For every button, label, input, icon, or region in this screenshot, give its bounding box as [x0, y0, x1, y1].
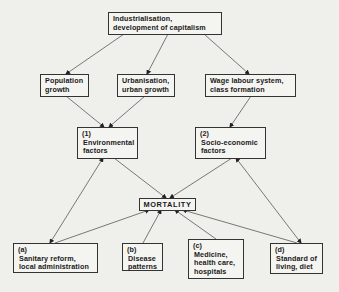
node-medicine: (c) Medicine, health care, hospitals: [188, 239, 244, 279]
node-text: MORTALITY: [143, 200, 192, 209]
arrow-industrialisation-population: [66, 34, 124, 74]
arrow-disease-mortality: [143, 210, 161, 243]
arrow-urbanisation-environmental: [109, 96, 145, 127]
arrow-sanitary-environmental: [50, 158, 103, 243]
node-text: urban growth: [122, 86, 170, 95]
node-disease-patterns: (b) Disease patterns: [122, 243, 163, 271]
node-text: development of capitalism: [113, 24, 217, 33]
arrow-socioeconomic-mortality: [170, 158, 232, 198]
arrow-standard-socioeconomic: [236, 158, 301, 243]
arrow-wage-socioeconomic: [230, 96, 251, 127]
node-sanitary-reform: (a) Sanitary reform, local administratio…: [13, 243, 98, 273]
node-text: patterns: [127, 263, 158, 272]
arrow-industrialisation-urbanisation: [147, 34, 168, 74]
node-text: local administration: [18, 263, 93, 272]
arrow-population-environmental: [66, 96, 104, 127]
node-text: class formation: [210, 86, 291, 95]
arrow-medicine-mortality: [175, 210, 216, 239]
mortality-factors-diagram: Industrialisation, development of capita…: [0, 0, 339, 292]
node-wage-labour: Wage labour system, class formation: [205, 74, 296, 97]
node-mortality: MORTALITY: [139, 198, 196, 211]
node-text: factors: [200, 147, 261, 156]
node-text: hospitals: [193, 268, 239, 277]
arrow-sanitary-mortality: [55, 210, 149, 243]
arrow-industrialisation-wage: [204, 34, 249, 74]
node-environmental-factors: (1) Environmental factors: [77, 127, 138, 159]
node-text: growth: [45, 86, 84, 95]
arrow-environmental-mortality: [114, 158, 166, 198]
node-standard-of-living: (d) Standard of living, diet: [270, 243, 323, 274]
node-socioeconomic-factors: (2) Socio-economic factors: [195, 127, 266, 159]
node-text: living, diet: [275, 263, 318, 272]
node-text: factors: [82, 147, 133, 156]
node-urbanisation: Urbanisation, urban growth: [117, 74, 175, 97]
node-population-growth: Population growth: [40, 74, 89, 97]
node-industrialisation: Industrialisation, development of capita…: [108, 12, 222, 35]
